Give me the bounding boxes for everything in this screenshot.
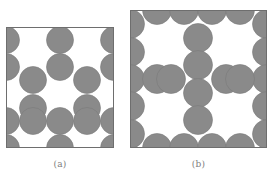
panel-b-border bbox=[130, 10, 267, 148]
panel-b: (b) bbox=[0, 0, 278, 179]
panel-b-caption: (b) bbox=[130, 159, 267, 170]
figure-root: (a)(b) bbox=[0, 0, 278, 179]
